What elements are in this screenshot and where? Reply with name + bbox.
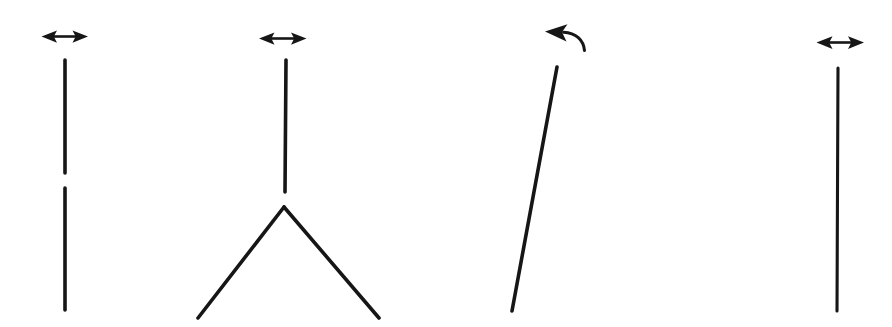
figure-container: translation left-right translation left-… xyxy=(0,0,892,327)
vertical-rod xyxy=(837,68,838,311)
line-drawing-figure xyxy=(0,0,892,327)
figure-background xyxy=(0,0,892,327)
rod-upper-segment xyxy=(285,60,286,192)
